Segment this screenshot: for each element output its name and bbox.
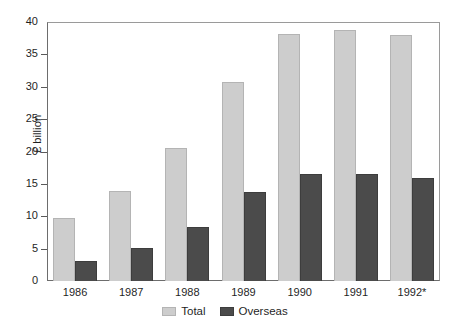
y-tick-label: 0 [6,275,38,286]
x-tick-label: 1988 [159,286,215,299]
bar-total-1987 [109,191,131,281]
chart-legend: TotalOverseas [0,305,450,317]
bar-total-1986 [53,218,75,281]
bar-chart: £ billion 0510152025303540 1986198719881… [0,0,450,330]
x-tick-label: 1992* [384,286,440,299]
bars-layer [47,22,440,281]
bar-overseas-1986 [75,261,97,281]
y-tick-label: 5 [6,243,38,254]
legend-item-total: Total [162,305,205,317]
bar-overseas-1988 [187,227,209,281]
x-tick-label: 1991 [328,286,384,299]
bar-overseas-1987 [131,248,153,281]
legend-label: Overseas [239,305,288,317]
bar-total-1992star [390,35,412,281]
bar-overseas-1992star [412,178,434,281]
legend-label: Total [181,305,205,317]
y-tick-label: 20 [6,146,38,157]
y-tick-label: 40 [6,16,38,27]
x-tick-label: 1987 [103,286,159,299]
bar-overseas-1989 [244,192,266,281]
y-tick-label: 10 [6,210,38,221]
legend-swatch-total-icon [162,307,176,316]
legend-item-overseas: Overseas [220,305,288,317]
y-tick-label: 30 [6,81,38,92]
bar-overseas-1990 [300,174,322,281]
y-tick-label: 25 [6,113,38,124]
bar-total-1988 [165,148,187,281]
x-tick-label: 1986 [47,286,103,299]
y-tick-label: 35 [6,48,38,59]
x-tick-label: 1989 [215,286,271,299]
legend-swatch-overseas-icon [220,307,234,316]
x-tick-label: 1990 [272,286,328,299]
bar-total-1991 [334,30,356,281]
y-tick-label: 15 [6,178,38,189]
x-axis-labels: 1986198719881989199019911992* [47,286,440,302]
bar-total-1990 [278,34,300,281]
bar-overseas-1991 [356,174,378,281]
bar-total-1989 [222,82,244,281]
y-axis-title: £ billion [31,99,43,169]
